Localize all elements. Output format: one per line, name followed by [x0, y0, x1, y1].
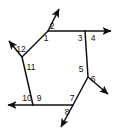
angle-label-10: 10: [22, 93, 32, 103]
angle-label-4: 4: [91, 33, 96, 43]
angle-number-labels: 1 2 3 4 5 6 7 8 9 10 11 12: [16, 21, 95, 117]
angle-label-8: 8: [65, 107, 70, 117]
angle-label-9: 9: [37, 93, 42, 103]
angle-label-3: 3: [78, 33, 83, 43]
geometry-figure: 1 2 3 4 5 6 7 8 9 10 11 12: [0, 0, 120, 137]
angle-label-1: 1: [44, 33, 49, 43]
exterior-rays: [8, 9, 111, 127]
hexagon-side-lower-right: [73, 77, 88, 105]
angle-label-5: 5: [79, 64, 84, 74]
hexagon-side-upper-right: [85, 31, 88, 77]
angle-label-11: 11: [27, 62, 36, 72]
angle-label-7: 7: [70, 93, 75, 103]
geometry-diagram: 1 2 3 4 5 6 7 8 9 10 11 12: [0, 0, 120, 137]
angle-label-2: 2: [50, 21, 55, 31]
angle-label-12: 12: [16, 44, 26, 54]
angle-label-6: 6: [91, 74, 96, 84]
